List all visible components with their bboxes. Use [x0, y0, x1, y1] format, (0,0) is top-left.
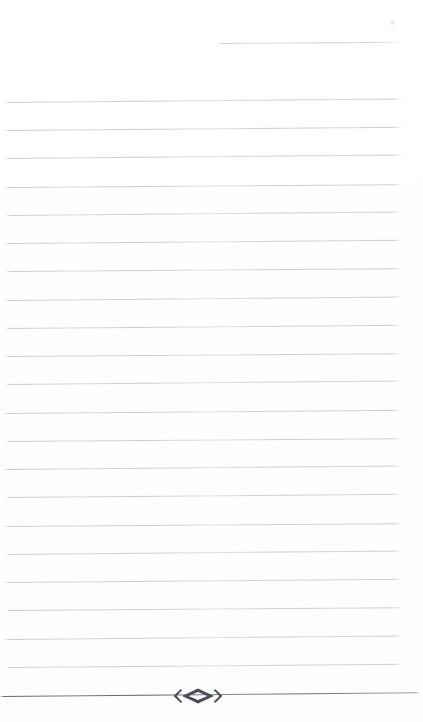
rule-ink: [4, 297, 404, 301]
ruled-line: [4, 410, 404, 413]
ruled-page: [0, 0, 423, 722]
ruled-line: [5, 438, 403, 441]
rule-ink: [5, 607, 403, 611]
ruled-line: [5, 155, 403, 158]
ruled-line: [5, 607, 403, 610]
ruled-line: [5, 551, 403, 554]
ruled-line: [5, 381, 403, 384]
scan-smudge-artifact: [389, 19, 396, 26]
rule-ink: [4, 184, 404, 188]
partial-top-rule: [217, 42, 403, 43]
paper-surface: [0, 0, 423, 722]
ruled-line: [4, 636, 404, 639]
ruled-line: [4, 353, 404, 356]
rule-ink: [4, 410, 404, 414]
rule-ink: [4, 240, 404, 244]
ruled-line: [5, 99, 403, 102]
diamond-fleuron-icon: [171, 688, 225, 704]
rule-ink: [4, 636, 404, 640]
ruled-line: [5, 664, 404, 667]
rule-ink: [5, 381, 403, 385]
rule-ink: [4, 579, 404, 583]
rule-ink: [5, 99, 403, 103]
rule-ink: [5, 664, 404, 668]
ruled-line: [4, 240, 404, 243]
ruled-line: [4, 523, 404, 526]
rule-ink: [0, 692, 420, 697]
rule-ink: [4, 353, 404, 357]
rule-ink: [5, 155, 403, 159]
rule-ink: [4, 127, 404, 131]
rule-ink: [5, 325, 403, 329]
rule-ink: [5, 268, 403, 272]
rule-ink: [5, 551, 403, 555]
ruled-line: [4, 579, 404, 582]
ruled-line: [4, 184, 404, 187]
rule-ink: [5, 438, 403, 442]
ruled-line: [5, 268, 403, 271]
final-ornamental-rule: [0, 692, 420, 696]
ruled-line: [5, 212, 403, 215]
ruled-line: [4, 466, 404, 469]
rule-ink: [217, 42, 403, 44]
ruled-line: [4, 127, 404, 130]
ruled-line: [5, 325, 403, 328]
rule-ink: [5, 212, 403, 216]
rule-ink: [5, 494, 403, 498]
ruled-line: [5, 494, 403, 497]
rule-ink: [4, 466, 404, 470]
rule-ink: [4, 523, 404, 527]
ruled-line: [4, 297, 404, 300]
